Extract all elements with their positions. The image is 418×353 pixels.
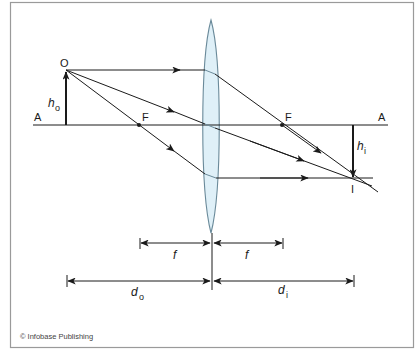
svg-text:i: i xyxy=(364,146,366,156)
focal-label-right: F xyxy=(285,111,292,123)
svg-text:o: o xyxy=(139,292,144,302)
axis-label-left: A xyxy=(34,111,42,123)
lens-ray-diagram: A A O I F F h o h i f f d o d i © Infoba… xyxy=(0,0,418,353)
focal-point-left xyxy=(137,123,141,127)
object-point-label: O xyxy=(60,57,69,69)
focal-point-right xyxy=(280,123,284,127)
image-point-label: I xyxy=(351,183,354,195)
svg-text:h: h xyxy=(48,96,55,110)
svg-text:d: d xyxy=(131,285,138,299)
axis-label-right: A xyxy=(378,111,386,123)
copyright-credit: © Infobase Publishing xyxy=(20,332,93,341)
svg-text:d: d xyxy=(278,283,285,297)
svg-text:h: h xyxy=(357,139,364,153)
svg-text:o: o xyxy=(55,103,60,113)
focal-label-left: F xyxy=(142,111,149,123)
svg-text:i: i xyxy=(286,290,288,300)
